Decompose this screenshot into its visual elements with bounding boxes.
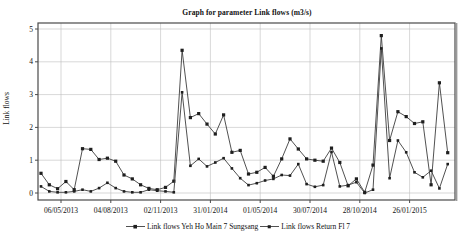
chart-figure: Graph for parameter Link flows (m3/s) Li…	[0, 0, 476, 239]
svg-text:30/07/2014: 30/07/2014	[293, 206, 327, 215]
svg-text:02/11/2013: 02/11/2013	[144, 206, 178, 215]
legend-item-return: Link flows Return Fl 7	[260, 222, 350, 231]
legend-label-return: Link flows Return Fl 7	[281, 222, 350, 231]
legend-marker-return-icon	[260, 222, 279, 231]
legend: Link flows Yeh Ho Main 7 Sungsang Link f…	[0, 219, 476, 233]
svg-text:06/05/2013: 06/05/2013	[44, 206, 78, 215]
legend-marker-sungsang-icon	[126, 222, 145, 231]
svg-text:31/01/2014: 31/01/2014	[193, 206, 227, 215]
legend-label-sungsang: Link flows Yeh Ho Main 7 Sungsang	[147, 222, 258, 231]
svg-text:26/01/2015: 26/01/2015	[393, 206, 427, 215]
svg-text:5: 5	[29, 25, 33, 34]
svg-text:28/10/2014: 28/10/2014	[343, 206, 377, 215]
svg-text:1: 1	[29, 156, 33, 165]
plot-area: 01234506/05/201304/08/201302/11/201331/0…	[0, 0, 476, 216]
svg-text:3: 3	[29, 90, 33, 99]
legend-item-sungsang: Link flows Yeh Ho Main 7 Sungsang	[126, 222, 258, 231]
svg-text:04/08/2013: 04/08/2013	[94, 206, 128, 215]
svg-text:0: 0	[29, 189, 33, 198]
svg-text:01/05/2014: 01/05/2014	[243, 206, 277, 215]
svg-text:4: 4	[29, 57, 33, 66]
svg-text:2: 2	[29, 123, 33, 132]
